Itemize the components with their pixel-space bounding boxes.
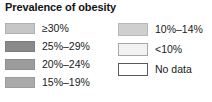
legend-swatch-no-data bbox=[118, 63, 148, 76]
legend-swatch-10-14 bbox=[118, 23, 148, 36]
legend-title: Prevalence of obesity bbox=[5, 1, 116, 14]
map-legend: Prevalence of obesity ≥30% 25%–29% 20%–2… bbox=[0, 0, 212, 102]
legend-item-no-data: No data bbox=[118, 59, 212, 79]
legend-swatch-15-19 bbox=[5, 77, 35, 88]
legend-label-under-10: <10% bbox=[155, 43, 182, 55]
legend-swatch-20-24 bbox=[5, 59, 35, 70]
legend-label-15-19: 15%–19% bbox=[42, 76, 90, 88]
legend-item-30-or-more: ≥30% bbox=[5, 19, 109, 37]
legend-item-10-14: 10%–14% bbox=[118, 19, 212, 39]
legend-label-10-14: 10%–14% bbox=[155, 23, 203, 35]
legend-swatch-30-or-more bbox=[5, 23, 35, 34]
legend-item-20-24: 20%–24% bbox=[5, 55, 109, 73]
legend-item-under-10: <10% bbox=[118, 39, 212, 59]
legend-column-right: 10%–14% <10% No data bbox=[118, 19, 212, 79]
legend-label-30-or-more: ≥30% bbox=[42, 22, 69, 34]
legend-column-left: ≥30% 25%–29% 20%–24% 15%–19% bbox=[5, 19, 109, 91]
legend-swatch-under-10 bbox=[118, 43, 148, 56]
legend-label-20-24: 20%–24% bbox=[42, 58, 90, 70]
legend-item-15-19: 15%–19% bbox=[5, 73, 109, 91]
legend-label-no-data: No data bbox=[155, 63, 192, 75]
legend-item-25-29: 25%–29% bbox=[5, 37, 109, 55]
legend-swatch-25-29 bbox=[5, 41, 35, 52]
legend-label-25-29: 25%–29% bbox=[42, 40, 90, 52]
